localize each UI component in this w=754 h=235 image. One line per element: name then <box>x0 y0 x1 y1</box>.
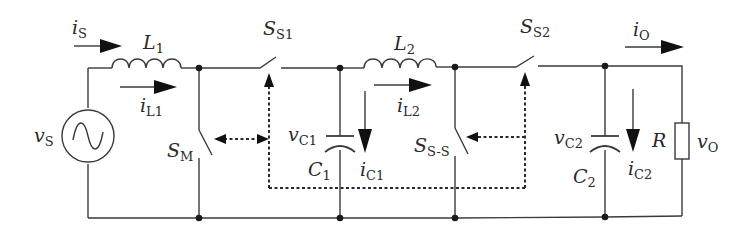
circuit-diagram: iS L1 iL1 vS SM SS1 L2 iL2 vC1 C1 iC1 SS… <box>0 0 754 235</box>
node-dot <box>337 65 344 72</box>
wire-ss2-output <box>538 66 682 123</box>
arrow-right-icon <box>154 80 177 94</box>
node-dot <box>196 215 203 222</box>
switch-sm-blade <box>199 130 212 155</box>
arrow-right-icon <box>409 78 432 92</box>
label-ic2: iC2 <box>628 157 652 182</box>
node-dot <box>337 215 344 222</box>
node-dot <box>452 215 459 222</box>
arrow-up-icon <box>520 72 530 86</box>
label-sss: SS-S <box>414 134 450 159</box>
arrow-down-icon <box>626 129 640 152</box>
resistor-icon <box>675 123 689 159</box>
capacitor-c1-icon <box>325 136 355 152</box>
label-il1: iL1 <box>140 94 163 119</box>
arrow-right-icon <box>661 40 684 54</box>
switch-ss1-blade <box>252 57 276 68</box>
node-dot <box>602 214 609 221</box>
arrow-left-icon <box>214 134 226 144</box>
label-r: R <box>651 129 666 151</box>
node-dot <box>602 63 609 70</box>
label-l2: L2 <box>393 32 415 57</box>
label-is: iS <box>72 16 87 41</box>
label-ic1: iC1 <box>360 158 384 183</box>
inductor-l2-icon <box>364 59 436 68</box>
label-vo: vO <box>697 130 718 155</box>
label-l1: L1 <box>142 31 164 56</box>
arrow-up-icon <box>264 73 274 87</box>
label-sm: SM <box>167 139 193 164</box>
label-c2: C2 <box>573 165 596 190</box>
arrow-down-icon <box>358 129 372 153</box>
circuit-svg: iS L1 iL1 vS SM SS1 L2 iL2 vC1 C1 iC1 SS… <box>0 0 754 235</box>
node-dot <box>452 64 459 71</box>
switch-ss2-blade <box>505 56 534 67</box>
label-il2: iL2 <box>397 94 420 119</box>
label-ss1: SS1 <box>263 17 293 42</box>
label-vc2: vC2 <box>554 126 583 151</box>
label-io: iO <box>633 18 650 43</box>
arrow-right-icon <box>100 39 122 53</box>
inductor-l1-icon <box>112 59 181 68</box>
arrow-left-icon <box>466 132 478 142</box>
label-c1: C1 <box>308 158 331 183</box>
label-vc1: vC1 <box>288 123 317 148</box>
wire-bottom-rail <box>88 216 682 218</box>
label-ss2: SS2 <box>520 15 550 40</box>
switch-sss-blade <box>455 128 468 154</box>
capacitor-c2-icon <box>590 136 620 152</box>
label-vs: vS <box>34 124 54 149</box>
ac-source-icon <box>62 110 114 162</box>
node-dot <box>196 65 203 72</box>
arrow-right-icon <box>257 134 269 144</box>
